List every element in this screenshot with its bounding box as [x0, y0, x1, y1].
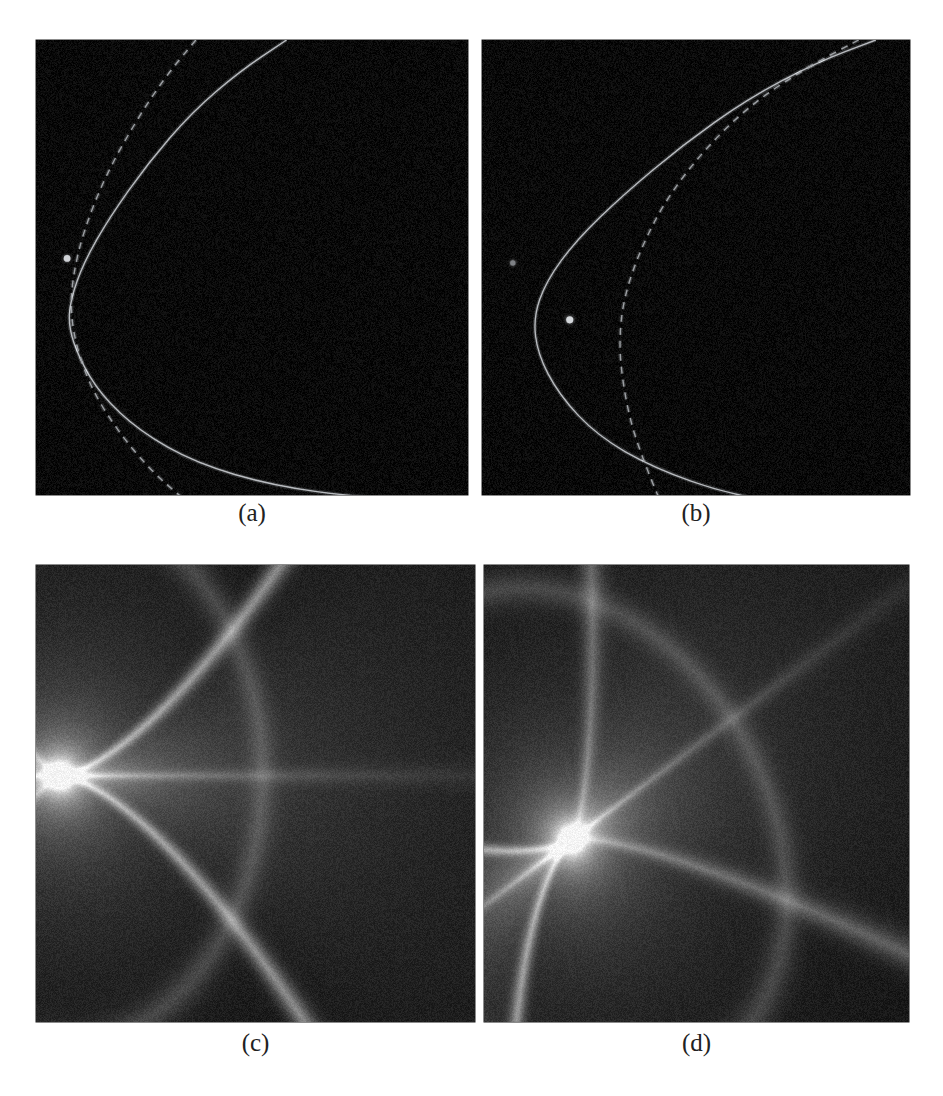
- panel-cell-b: (b): [482, 40, 910, 534]
- panel-c-image: [36, 565, 475, 1022]
- panel-cell-d: (d): [484, 565, 909, 1064]
- panel-d-image: [484, 565, 909, 1022]
- panel-cell-a: (a): [36, 40, 468, 534]
- panel-a-image: [36, 40, 468, 495]
- panel-d-caption: (d): [484, 1030, 909, 1055]
- panel-b-image: [482, 40, 910, 495]
- panel-a-canvas: [36, 40, 468, 495]
- panel-c-caption: (c): [36, 1030, 475, 1055]
- panel-b-canvas: [482, 40, 910, 495]
- panel-c-canvas: [36, 565, 475, 1022]
- figure-root: (a) (b) (c) (d): [0, 0, 943, 1096]
- panel-b-caption: (b): [482, 500, 910, 525]
- panel-a-caption: (a): [36, 500, 468, 525]
- panel-d-canvas: [484, 565, 909, 1022]
- panel-cell-c: (c): [36, 565, 475, 1064]
